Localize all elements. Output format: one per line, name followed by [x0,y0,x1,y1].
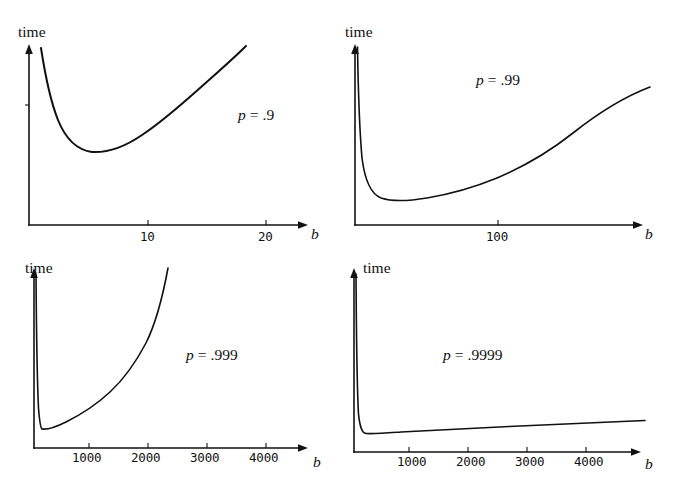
annotation-p-value: p=.999 [186,347,238,363]
x-tick-label-4000: 4000 [574,456,603,469]
x-axis-label-b: b [311,226,319,242]
annotation-p-symbol: p [443,346,451,363]
x-axis-arrowhead [298,444,308,452]
x-axis-arrowhead [298,221,308,229]
y-axis-label-time: time [345,24,373,40]
panel-p-9999-plot [339,248,679,497]
annotation-equals: = [488,71,497,88]
x-tick-label-4000: 4000 [249,452,278,465]
x-tick-label-2000: 2000 [131,452,160,465]
annotation-equals: = [198,346,207,363]
x-tick-label-1000: 1000 [397,456,426,469]
annotation-p-symbol: p [476,71,484,88]
figure-four-panel-time-vs-b: time b 10 20 p=.9 time b 100 p [0,0,679,497]
x-tick-label-100: 100 [486,231,508,244]
annotation-equals: = [250,106,259,123]
annotation-equals: = [455,346,464,363]
x-tick-label-3000: 3000 [190,452,219,465]
panel-p-999-plot [0,248,340,497]
annotation-p-symbol: p [186,346,194,363]
x-axis-arrowhead [633,221,643,229]
x-tick-label-10: 10 [140,231,155,244]
x-tick-label-3000: 3000 [515,456,544,469]
x-axis-label-b: b [645,226,653,242]
panel-p-9: time b 10 20 p=.9 [0,0,340,248]
panel-p-999: time b 1000 2000 3000 4000 p=.999 [0,248,340,497]
annotation-p-value: p=.9 [238,107,274,123]
annotation-p-symbol: p [238,106,246,123]
x-tick-label-1000: 1000 [72,452,101,465]
x-tick-label-20: 20 [258,231,273,244]
annotation-p-number: .9 [263,106,275,123]
curve-p-999 [36,268,168,429]
panel-p-99: time b 100 p=.99 [339,0,679,248]
panel-p-9-plot [0,0,340,248]
annotation-p-number: .999 [211,346,238,363]
panel-p-9999: time b 1000 2000 3000 4000 p=.9999 [339,248,679,497]
annotation-p-value: p=.9999 [443,347,502,363]
x-axis-label-b: b [313,454,321,470]
y-axis-label-time: time [363,260,391,276]
panel-p-99-plot [339,0,679,248]
x-axis-arrowhead [631,448,641,456]
annotation-p-number: .9999 [468,346,503,363]
x-tick-label-2000: 2000 [456,456,485,469]
annotation-p-value: p=.99 [476,72,520,88]
y-axis-label-time: time [18,24,46,40]
annotation-p-number: .99 [501,71,520,88]
y-axis-arrowhead [25,44,33,54]
y-axis-label-time: time [25,260,53,276]
x-axis-label-b: b [645,456,653,472]
curve-p-9 [41,46,246,152]
